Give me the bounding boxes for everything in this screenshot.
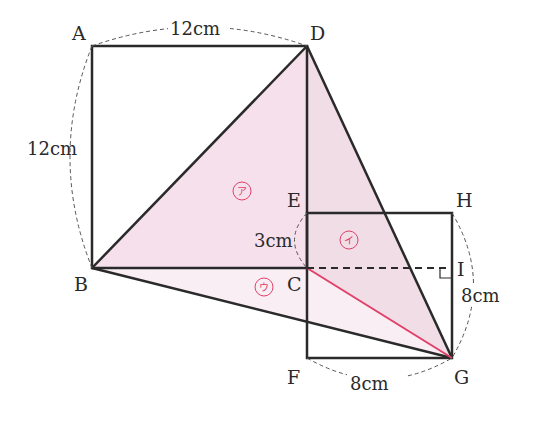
point-d-label: D	[310, 22, 325, 44]
point-b-label: B	[74, 273, 88, 295]
dim-fg-label: 8cm	[350, 373, 389, 394]
point-c-label: C	[287, 273, 302, 295]
svg-text:イ: イ	[344, 235, 354, 246]
svg-text:ア: ア	[237, 186, 247, 197]
dim-ec-label: 3cm	[254, 230, 293, 251]
dim-ad-label: 12cm	[170, 18, 220, 39]
dim-ig-label: 8cm	[461, 285, 500, 306]
point-i-label: I	[457, 258, 465, 280]
svg-text:ウ: ウ	[259, 282, 269, 293]
right-angle-marker	[440, 268, 452, 278]
point-e-label: E	[287, 189, 301, 211]
dim-ab-label: 12cm	[27, 138, 77, 159]
geometry-diagram: 12cm 12cm 3cm 8cm 8cm A D B C E H I F G …	[0, 0, 548, 422]
point-f-label: F	[287, 366, 300, 388]
point-g-label: G	[454, 366, 469, 388]
point-a-label: A	[71, 22, 86, 44]
point-h-label: H	[456, 189, 473, 211]
